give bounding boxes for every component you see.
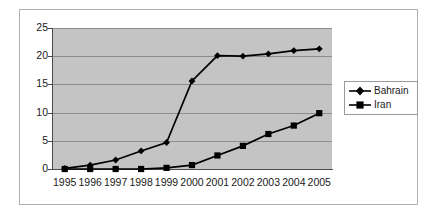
y-tick-mark [48, 28, 52, 29]
data-point-bahrain-1997 [112, 157, 119, 164]
legend-label-iran: Iran [374, 99, 391, 111]
data-point-iran-1997 [113, 166, 119, 172]
data-point-bahrain-1999 [163, 139, 170, 146]
legend-marker-diamond-icon [348, 84, 372, 98]
y-tick-mark [48, 84, 52, 85]
legend-label-bahrain: Bahrain [374, 85, 408, 97]
data-point-bahrain-2005 [316, 45, 323, 52]
y-tick-mark [48, 56, 52, 57]
data-point-iran-1998 [138, 166, 144, 172]
series-line-iran [65, 113, 320, 169]
y-tick-mark [48, 141, 52, 142]
data-point-bahrain-2004 [290, 47, 297, 54]
chart-legend: Bahrain Iran [344, 81, 418, 115]
data-point-iran-2004 [291, 122, 297, 128]
y-tick-mark [48, 113, 52, 114]
data-point-iran-2002 [240, 143, 246, 149]
data-point-iran-2005 [316, 110, 322, 116]
data-point-bahrain-2002 [240, 53, 247, 60]
data-point-iran-1996 [87, 166, 93, 172]
legend-marker-square-icon [348, 98, 372, 112]
legend-item-iran: Iran [348, 98, 416, 112]
series-line-bahrain [65, 49, 320, 169]
data-point-iran-2000 [189, 162, 195, 168]
data-point-bahrain-2003 [265, 51, 272, 58]
legend-item-bahrain: Bahrain [348, 84, 416, 98]
y-tick-mark [48, 169, 52, 170]
data-point-iran-2003 [265, 131, 271, 137]
data-point-bahrain-1998 [138, 148, 145, 155]
data-point-iran-1999 [163, 165, 169, 171]
data-point-iran-1995 [62, 166, 68, 172]
data-point-iran-2001 [214, 152, 220, 158]
line-chart: 0510152025 19951996199719981999200020012… [0, 0, 438, 219]
